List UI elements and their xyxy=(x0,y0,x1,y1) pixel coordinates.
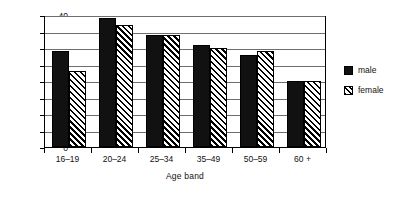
x-tick-label: 16–19 xyxy=(43,154,93,164)
x-tick-label: 25–34 xyxy=(137,154,187,164)
legend-item-male[interactable]: male xyxy=(344,62,404,78)
bar-male xyxy=(146,35,163,147)
bar-male xyxy=(193,45,210,147)
x-tick-label: 60 + xyxy=(278,154,328,164)
bar-female xyxy=(304,81,321,147)
bar-female xyxy=(69,71,86,147)
bar-male xyxy=(52,51,69,147)
plot-area xyxy=(44,16,326,148)
x-tick-label: 35–49 xyxy=(184,154,234,164)
x-tick-mark xyxy=(185,148,186,153)
x-tick-mark xyxy=(279,148,280,153)
chart-legend: malefemale xyxy=(344,62,404,102)
bar-female xyxy=(116,25,133,147)
bar-chart-figure: Per cent 0510152025303540 16–1920–2425–3… xyxy=(0,0,404,197)
bar-group xyxy=(45,16,92,147)
bar-group xyxy=(233,16,280,147)
legend-label: female xyxy=(358,85,384,95)
x-tick-mark xyxy=(91,148,92,153)
bar-female xyxy=(257,51,274,147)
x-tick-label: 20–24 xyxy=(90,154,140,164)
bar-group xyxy=(139,16,186,147)
bar-group xyxy=(92,16,139,147)
x-tick-mark xyxy=(232,148,233,153)
x-tick-mark xyxy=(138,148,139,153)
bar-female xyxy=(163,35,180,147)
bar-male xyxy=(287,81,304,147)
bar-male xyxy=(240,55,257,147)
legend-label: male xyxy=(358,65,376,75)
bar-group xyxy=(280,16,327,147)
x-tick-label: 50–59 xyxy=(231,154,281,164)
x-tick-mark xyxy=(44,148,45,153)
legend-item-female[interactable]: female xyxy=(344,82,404,98)
x-tick-mark xyxy=(326,148,327,153)
legend-swatch-female xyxy=(344,86,353,95)
bar-male xyxy=(99,18,116,147)
x-axis-title: Age band xyxy=(44,171,326,181)
bar-female xyxy=(210,48,227,147)
bar-group xyxy=(186,16,233,147)
legend-swatch-male xyxy=(344,66,353,75)
